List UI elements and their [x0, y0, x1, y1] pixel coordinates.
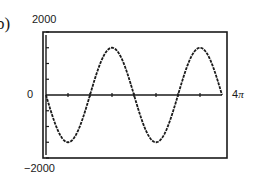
plot-area	[0, 0, 253, 184]
